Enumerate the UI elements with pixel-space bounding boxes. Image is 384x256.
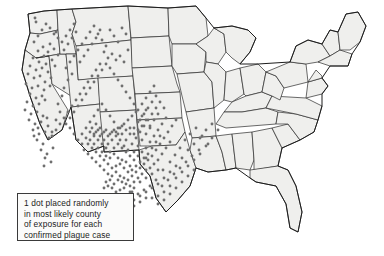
case-dot	[211, 123, 214, 126]
case-dot	[55, 119, 58, 122]
case-dot	[159, 135, 162, 138]
case-dot	[137, 155, 140, 158]
case-dot	[193, 143, 196, 146]
case-dot	[105, 147, 108, 150]
case-dot	[161, 123, 164, 126]
case-dot	[153, 163, 156, 166]
case-dot	[79, 93, 82, 96]
case-dot	[163, 191, 166, 194]
case-dot	[147, 107, 150, 110]
case-dot	[30, 113, 33, 116]
case-dot	[135, 137, 138, 140]
case-dot	[129, 133, 132, 136]
case-dot	[93, 25, 96, 28]
case-dot	[139, 201, 142, 204]
case-dot	[127, 49, 130, 52]
case-dot	[113, 183, 116, 186]
case-dot	[133, 127, 136, 130]
case-dot	[34, 123, 37, 126]
case-dot	[125, 139, 128, 142]
case-dot	[99, 155, 102, 158]
case-dot	[143, 163, 146, 166]
case-dot	[141, 125, 144, 128]
case-dot	[191, 155, 194, 158]
case-dot	[69, 127, 72, 130]
case-dot	[95, 123, 98, 126]
case-dot	[87, 81, 90, 84]
case-dot	[113, 121, 116, 124]
case-dot	[187, 149, 190, 152]
case-dot	[149, 91, 152, 94]
case-dot	[125, 161, 128, 164]
case-dot	[167, 131, 170, 134]
case-dot	[53, 33, 56, 36]
legend-line-2: in most likely county	[24, 209, 128, 220]
case-dot	[117, 79, 120, 82]
case-dot	[121, 125, 124, 128]
case-dot	[198, 149, 201, 152]
case-dot	[149, 125, 152, 128]
case-dot	[107, 57, 110, 60]
case-dot	[181, 181, 184, 184]
case-dot	[157, 113, 160, 116]
case-dot	[43, 165, 46, 168]
case-dot	[135, 171, 138, 174]
case-dot	[31, 87, 34, 90]
case-dot	[41, 29, 44, 32]
case-dot	[107, 185, 110, 188]
case-dot	[89, 121, 92, 124]
case-dot	[41, 67, 44, 70]
case-dot	[113, 153, 116, 156]
case-dot	[133, 181, 136, 184]
case-dot	[123, 187, 126, 190]
case-dot	[85, 93, 88, 96]
case-dot	[147, 153, 150, 156]
case-dot	[67, 43, 70, 46]
case-dot	[111, 187, 114, 190]
case-dot	[184, 139, 187, 142]
case-dot	[157, 195, 160, 198]
case-dot	[65, 67, 68, 70]
case-dot	[77, 139, 80, 142]
case-dot	[51, 135, 54, 138]
case-dot	[121, 85, 124, 88]
case-dot	[151, 101, 154, 104]
case-dot	[38, 103, 41, 106]
case-dot	[35, 97, 38, 100]
case-dot	[43, 89, 46, 92]
case-dot	[77, 49, 80, 52]
case-dot	[151, 197, 154, 200]
case-dot	[45, 63, 48, 66]
case-dot	[37, 127, 40, 130]
case-dot	[125, 91, 128, 94]
case-dot	[145, 169, 148, 172]
case-dot	[171, 125, 174, 128]
case-dot	[103, 139, 106, 142]
case-dot	[95, 69, 98, 72]
case-dot	[125, 183, 128, 186]
case-dot	[167, 179, 170, 182]
case-dot	[59, 111, 62, 114]
case-dot	[69, 117, 72, 120]
case-dot	[169, 185, 172, 188]
case-dot	[153, 119, 156, 122]
case-dot	[79, 61, 82, 64]
case-dot	[113, 147, 116, 150]
case-dot	[143, 113, 146, 116]
case-dot	[81, 99, 84, 102]
case-dot	[83, 149, 86, 152]
case-dot	[119, 163, 122, 166]
case-dot	[109, 29, 112, 32]
case-dot	[129, 165, 132, 168]
case-dot	[54, 65, 57, 68]
case-dot	[125, 151, 128, 154]
case-dot	[165, 147, 168, 150]
case-dot	[105, 181, 108, 184]
case-dot	[97, 139, 100, 142]
case-dot	[123, 167, 126, 170]
case-dot	[53, 48, 56, 51]
case-dot	[163, 107, 166, 110]
case-dot	[36, 111, 39, 114]
case-dot	[129, 155, 132, 158]
case-dot	[137, 177, 140, 180]
